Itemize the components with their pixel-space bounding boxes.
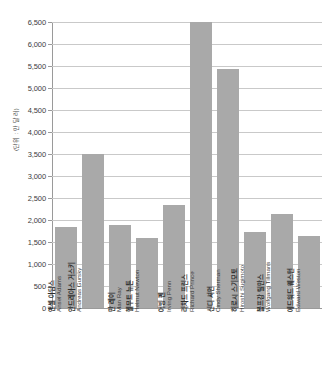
y-tick-mark (48, 110, 52, 111)
y-tick-mark (48, 88, 52, 89)
x-axis-labels: Ansel Adams앤셀 아담스Andreas Gursky안드레아스 거스키… (53, 310, 323, 387)
bar-slot (268, 22, 295, 308)
x-axis-label-en: Richard Prince (188, 271, 195, 312)
plot-area: 05001,0001,5002,0002,5003,0003,5004,0004… (52, 22, 322, 308)
y-tick-mark (48, 44, 52, 45)
y-tick-mark (48, 132, 52, 133)
x-axis-label: Helmut Newton헬무트 뉴튼 (134, 310, 161, 387)
y-tick-label: 3,500 (28, 150, 46, 159)
x-axis-label-en: Edward Weston (294, 268, 301, 312)
bar-slot (161, 22, 188, 308)
y-tick-mark (48, 176, 52, 177)
bar-slot (295, 22, 322, 308)
y-tick-label: 5,000 (28, 84, 46, 93)
y-tick-label: 2,500 (28, 194, 46, 203)
bar[interactable] (190, 22, 212, 308)
y-axis-unit-label: (단위 : 만 달러) (11, 85, 20, 175)
bar-chart: (단위 : 만 달러) 05001,0001,5002,0002,5003,00… (0, 0, 331, 387)
x-axis-label-en: Irving Penn (166, 281, 173, 312)
y-tick-label: 3,000 (28, 172, 46, 181)
x-axis-label-en: Man Ray (115, 287, 122, 312)
x-axis-label: Cindy Sherman신디 셔먼 (215, 310, 242, 387)
x-axis-label-en: Ansel Adams (55, 276, 62, 312)
bar-slot (80, 22, 107, 308)
bar[interactable] (82, 154, 104, 308)
bar-slot (134, 22, 161, 308)
bar-series (53, 22, 322, 308)
y-tick-mark (48, 264, 52, 265)
x-axis-label: Ansel Adams앤셀 아담스 (53, 310, 80, 387)
bar-slot (107, 22, 134, 308)
y-tick-label: 2,000 (28, 216, 46, 225)
y-tick-label: 4,000 (28, 128, 46, 137)
y-tick-mark (48, 66, 52, 67)
bar-slot (188, 22, 215, 308)
y-tick-label: 500 (34, 282, 46, 291)
y-tick-mark (48, 220, 52, 221)
x-axis-label: Wolfgang Tillmans볼프강 틸만스 (269, 310, 296, 387)
y-tick-mark (48, 154, 52, 155)
y-tick-mark (48, 242, 52, 243)
x-axis-label: Edward Weston에드워드 웨스턴 (296, 310, 323, 387)
x-axis-label-en: Hiroshi Sugimoto (239, 265, 246, 312)
y-tick-label: 0 (42, 304, 46, 313)
x-axis-label-en: Helmut Newton (133, 270, 140, 312)
x-axis-label: Andreas Gursky안드레아스 거스키 (80, 310, 107, 387)
x-axis-label: Hiroshi Sugimoto히로시 스기모토 (242, 310, 269, 387)
y-tick-label: 5,500 (28, 62, 46, 71)
x-axis-label: Man Ray만 레이 (107, 310, 134, 387)
y-tick-label: 1,000 (28, 260, 46, 269)
y-tick-mark (48, 22, 52, 23)
x-axis-label-en: Wolfgang Tillmans (264, 262, 271, 312)
x-axis-label: Richard Prince리차드 프린스 (188, 310, 215, 387)
x-axis-label-en: Cindy Sherman (214, 269, 221, 312)
y-tick-mark (48, 198, 52, 199)
x-axis-label-en: Andreas Gursky (75, 268, 82, 312)
x-axis-label: Irving Penn어빙 펜 (161, 310, 188, 387)
y-tick-label: 6,000 (28, 40, 46, 49)
y-tick-label: 6,500 (28, 18, 46, 27)
y-tick-label: 1,500 (28, 238, 46, 247)
y-tick-label: 4,500 (28, 106, 46, 115)
